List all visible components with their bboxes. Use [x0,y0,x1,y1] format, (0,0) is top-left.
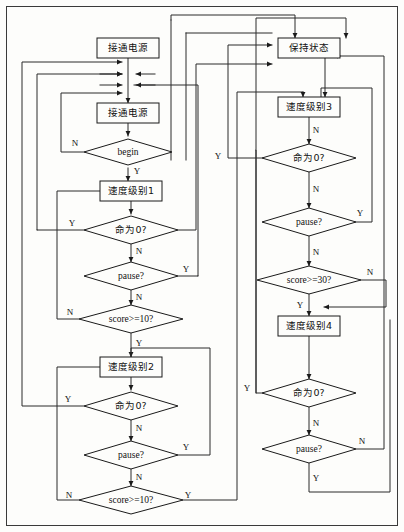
node-n18: 命为0? [262,379,356,407]
node-label: 命为0? [293,387,324,398]
flowchart-svg: 接通电源接通电源begin速度级别1命为0?pause?score>=10?速度… [0,0,404,532]
edge-label-e5: Y [183,264,190,274]
node-label: pause? [118,450,144,460]
edge-label-e13: N [66,490,73,500]
node-label: 命为0? [115,224,146,235]
node-n13: 速度级别3 [278,97,340,117]
node-n4: 速度级别1 [100,181,162,201]
node-n3: begin [84,139,172,165]
edge-label-e14: Y [185,490,192,500]
edge-label-e4: N [136,246,143,256]
node-label: 接通电源 [108,42,148,53]
edge-label-e16: Y [215,151,222,161]
node-label: begin [117,147,138,157]
edge-label-e2: Y [134,166,141,176]
edge-label-e25: Y [313,473,320,483]
edge-label-e1: N [72,138,79,148]
node-n19: pause? [262,435,356,463]
edge-label-e12: N [136,472,143,482]
edge-n14-Y-hold [228,45,272,158]
edge-label-e19: N [313,247,320,257]
edge-label-e18: Y [357,208,364,218]
node-n9: 命为0? [84,392,178,420]
node-label: pause? [296,217,322,227]
node-label: 速度级别4 [286,320,332,331]
edge-label-e23: N [313,418,320,428]
node-label: 速度级别3 [286,101,332,112]
edge-label-e8: Y [136,338,143,348]
edge-label-e10: N [136,423,143,433]
node-label: score>=10? [109,314,153,324]
edge-label-e7: N [67,307,74,317]
node-n10: pause? [84,441,178,469]
node-n1: 接通电源 [97,38,159,58]
node-n7: score>=10? [79,305,183,333]
node-n11: score>=10? [79,486,183,514]
node-n5: 命为0? [84,216,178,244]
edge-label-e24: N [359,436,366,446]
node-label: 速度级别2 [108,361,154,372]
node-n2: 接通电源 [97,103,159,123]
node-label: 命为0? [115,400,146,411]
node-label: 命为0? [293,152,324,163]
node-label: pause? [118,271,144,281]
edge-n7-N-loop [57,191,121,319]
node-n14: 命为0? [262,144,356,172]
node-n8: 速度级别2 [100,357,162,377]
flowchart-canvas: 接通电源接通电源begin速度级别1命为0?pause?score>=10?速度… [0,0,404,532]
node-label: 保持状态 [289,42,329,53]
edge-label-e17: N [313,184,320,194]
node-n15: pause? [262,208,356,236]
node-label: 速度级别1 [108,185,154,196]
edge-n19-Y-loop [309,320,390,492]
edge-label-e6: N [136,292,143,302]
node-n6: pause? [84,262,178,290]
edge-n18-Y-a [256,150,262,393]
edge-label-e11: Y [183,442,190,452]
edge-label-e15: N [313,125,320,135]
node-n16: score>=30? [257,266,361,294]
node-label: pause? [296,444,322,454]
edge-label-e21: Y [297,300,304,310]
edge-n18-Y-hold [256,18,346,393]
node-n12: 保持状态 [278,38,340,58]
node-label: score>=10? [109,495,153,505]
edge-label-e9: Y [65,394,72,404]
edge-layer [22,15,390,500]
edge-n11-N-loop [57,367,121,500]
edge-label-e22: Y [244,383,251,393]
edge-n5-to-hold [178,64,272,230]
node-layer: 接通电源接通电源begin速度级别1命为0?pause?score>=10?速度… [79,38,361,514]
edge-label-e20: N [367,267,374,277]
node-label: 接通电源 [108,107,148,118]
node-n17: 速度级别4 [278,316,340,336]
node-label: score>=30? [287,275,331,285]
edge-label-e3: Y [69,218,76,228]
